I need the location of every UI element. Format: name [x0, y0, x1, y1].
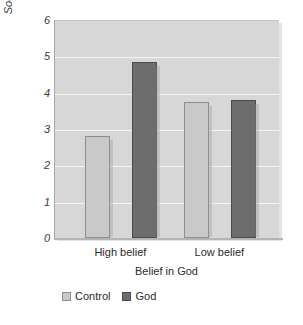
y-tick-label: 4	[30, 86, 50, 100]
x-axis-baseline	[54, 238, 283, 240]
y-tick-label: 2	[30, 158, 50, 172]
y-axis-tick-labels: 0123456	[30, 20, 50, 238]
y-axis-title: Socially Desirable Response	[0, 0, 16, 52]
y-tick-label: 1	[30, 195, 50, 209]
bar-shadow	[109, 140, 113, 237]
bar-shadow	[208, 106, 212, 237]
x-tick-label: High belief	[70, 244, 170, 260]
bar-god-high-belief	[132, 62, 157, 238]
legend-label: God	[135, 290, 156, 302]
legend-label: Control	[75, 290, 110, 302]
bar-control-high-belief	[85, 136, 110, 238]
bar-shadow	[255, 104, 259, 237]
bar-shadow	[156, 66, 160, 237]
plot-area	[54, 20, 279, 238]
y-tick-label: 3	[30, 122, 50, 136]
legend-swatch-icon	[122, 292, 131, 301]
x-tick-label: Low belief	[169, 244, 269, 260]
x-axis-tick-labels: High beliefLow belief	[54, 244, 279, 260]
legend-item-control[interactable]: Control	[62, 290, 110, 302]
legend-swatch-icon	[62, 292, 71, 301]
legend-item-god[interactable]: God	[122, 290, 156, 302]
x-axis-title: Belief in God	[54, 265, 279, 277]
bar-chart-figure: Socially Desirable Response 0123456 High…	[0, 0, 303, 325]
chart-legend: ControlGod	[54, 288, 279, 304]
y-tick-label: 5	[30, 49, 50, 63]
y-tick-label: 0	[30, 231, 50, 245]
bar-group-container	[55, 21, 279, 238]
bar-god-low-belief	[231, 100, 256, 238]
bar-control-low-belief	[184, 102, 209, 238]
y-tick-label: 6	[30, 13, 50, 27]
